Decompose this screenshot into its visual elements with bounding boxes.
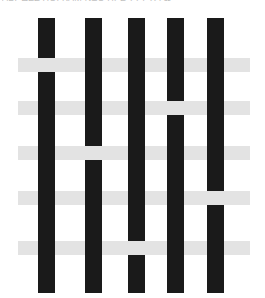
- warp-over-crossing: [128, 58, 145, 72]
- warp-over-crossing: [38, 241, 55, 255]
- warp-over-crossing: [167, 146, 184, 160]
- warp-over-crossing: [85, 101, 102, 115]
- warp-over-crossing: [85, 191, 102, 205]
- warp-over-crossing: [128, 191, 145, 205]
- warp-over-crossing: [85, 241, 102, 255]
- weave-figure: [0, 0, 265, 298]
- warp-over-crossing: [207, 241, 224, 255]
- warp-over-crossing: [167, 191, 184, 205]
- warp-over-crossing: [128, 101, 145, 115]
- warp-over-crossing: [38, 101, 55, 115]
- warp-over-crossing: [38, 146, 55, 160]
- warp-over-crossing: [207, 58, 224, 72]
- warp-over-crossing: [85, 58, 102, 72]
- warp-over-crossing: [207, 146, 224, 160]
- warp-over-crossing: [167, 58, 184, 72]
- warp-over-crossing: [38, 191, 55, 205]
- warp-over-crossing: [167, 241, 184, 255]
- warp-over-crossing: [128, 146, 145, 160]
- warp-over-crossing: [207, 101, 224, 115]
